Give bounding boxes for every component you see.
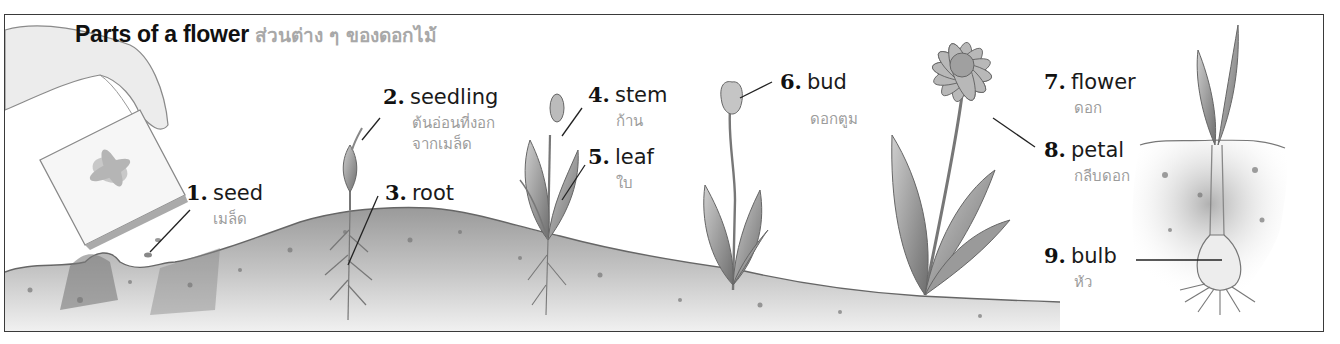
budding-plant-icon [704, 82, 772, 290]
label-english: leaf [615, 145, 654, 169]
label-leaf: 5.leaf ใบ [588, 146, 654, 193]
label-english: petal [1071, 138, 1124, 162]
label-thai: ก้าน [616, 111, 668, 131]
label-thai: กลีบดอก [1074, 166, 1130, 186]
label-number: 4. [588, 82, 610, 107]
label-thai: ใบ [616, 173, 654, 193]
label-english: stem [615, 83, 668, 107]
hand-with-seed-packet-icon [5, 26, 190, 258]
flowering-plant-icon [892, 41, 1035, 295]
label-thai: ดอก [1074, 98, 1136, 118]
title-thai: ส่วนต่าง ๆ ของดอกไม้ [255, 24, 437, 46]
label-english: root [412, 181, 454, 205]
label-thai: เมล็ด [213, 209, 263, 229]
label-number: 3. [385, 180, 407, 205]
label-seed: 1.seed เมล็ด [186, 182, 263, 229]
label-english: flower [1071, 70, 1136, 94]
title-english: Parts of a flower [75, 21, 249, 47]
label-thai-line2: จากเมล็ด [412, 134, 498, 154]
label-number: 1. [186, 180, 208, 205]
label-number: 8. [1044, 137, 1066, 162]
label-bud: 6.bud ดอกตูม [780, 71, 858, 129]
label-thai: ดอกตูม [810, 109, 858, 129]
label-bulb: 9.bulb หัว [1044, 245, 1117, 292]
label-number: 5. [588, 144, 610, 169]
label-thai: ต้นอ่อนที่งอก [412, 113, 498, 133]
label-seedling: 2.seedling ต้นอ่อนที่งอก จากเมล็ด [383, 86, 498, 155]
label-number: 2. [383, 84, 405, 109]
label-root: 3.root [385, 182, 454, 204]
label-petal: 8.petal กลีบดอก [1044, 139, 1130, 186]
diagram-title: Parts of a flowerส่วนต่าง ๆ ของดอกไม้ [75, 20, 437, 50]
label-number: 6. [780, 69, 802, 94]
label-english: seedling [410, 85, 498, 109]
label-thai: หัว [1074, 272, 1117, 292]
label-english: bulb [1071, 244, 1117, 268]
label-english: seed [213, 181, 263, 205]
label-english: bud [807, 70, 847, 94]
label-number: 7. [1044, 69, 1066, 94]
label-stem: 4.stem ก้าน [588, 84, 668, 131]
label-number: 9. [1044, 243, 1066, 268]
illustration-canvas [0, 0, 1340, 344]
label-flower: 7.flower ดอก [1044, 71, 1136, 118]
